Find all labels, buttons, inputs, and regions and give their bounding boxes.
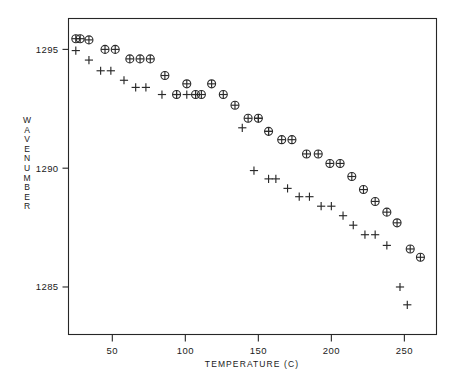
y-axis-title-letter: A (24, 125, 30, 135)
y-axis-title-letter: E (24, 144, 30, 154)
y-tick-label: 1295 (36, 44, 59, 55)
y-axis-title-letter: W (23, 115, 31, 125)
y-axis-title-letter: M (23, 173, 30, 183)
y-axis-title-letter: V (24, 134, 30, 144)
y-tick-label: 1285 (36, 281, 59, 292)
y-axis-title-letter: N (24, 153, 30, 163)
scatter-plot: 129512901285 50100150200250 TEMPERATURE … (0, 0, 452, 377)
y-axis-title-letter: U (24, 163, 30, 173)
x-tick-label: 100 (177, 345, 194, 356)
figure-container: 129512901285 50100150200250 TEMPERATURE … (0, 0, 452, 377)
x-tick-label: 150 (250, 345, 267, 356)
plot-background (0, 0, 452, 377)
y-axis-title-letter: E (24, 192, 30, 202)
x-tick-label: 50 (107, 345, 118, 356)
y-axis-title: WAVENUMBER (23, 115, 31, 211)
x-tick-label: 200 (323, 345, 340, 356)
y-tick-label: 1290 (36, 163, 59, 174)
y-axis-title-letter: B (24, 182, 30, 192)
x-tick-label: 250 (396, 345, 413, 356)
x-axis-title: TEMPERATURE (C) (205, 359, 299, 369)
y-axis-title-letter: R (24, 201, 30, 211)
